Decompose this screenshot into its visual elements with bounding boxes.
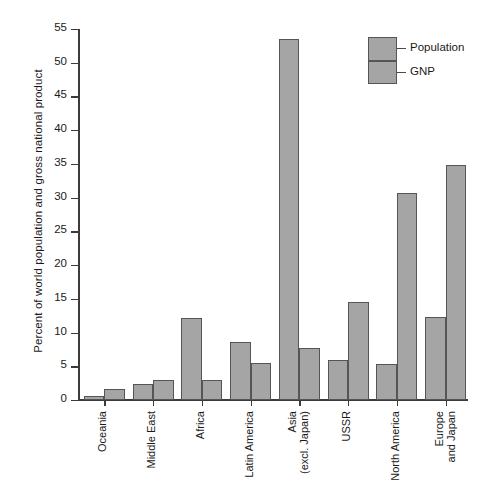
y-axis-tick: 35 — [71, 164, 78, 165]
y-axis-tick: 45 — [71, 96, 78, 97]
y-axis-tick: 50 — [71, 63, 78, 64]
bar-gnp-europe-and-japan — [446, 165, 467, 400]
y-axis-tick: 40 — [71, 130, 78, 131]
x-axis-category-label: Latin America — [244, 411, 256, 478]
bar-gnp-middle-east — [153, 380, 174, 400]
y-axis-tick-label: 10 — [54, 325, 67, 337]
x-axis-tick — [348, 400, 349, 406]
legend: Population GNP — [368, 37, 397, 84]
legend-leader-gnp — [397, 72, 406, 73]
x-axis-tick — [446, 400, 447, 406]
x-axis-category-label-line: (excl. Japan) — [298, 411, 310, 474]
y-axis-tick-label: 45 — [54, 88, 67, 100]
x-axis-category-label-line: Middle East — [145, 411, 157, 468]
bar-population-asia-excl-japan — [279, 39, 300, 400]
x-axis-category-label-line: Europe — [432, 411, 444, 446]
x-axis-category-label-line: Africa — [194, 411, 206, 439]
y-axis-tick: 0 — [71, 400, 78, 401]
x-axis-category-label: Middle East — [146, 411, 158, 468]
y-axis-tick: 10 — [71, 333, 78, 334]
legend-swatch-population — [368, 37, 397, 61]
bar-population-africa — [181, 318, 202, 400]
bar-gnp-ussr — [348, 302, 369, 400]
bar-gnp-latin-america — [251, 363, 272, 400]
y-axis-tick: 20 — [71, 265, 78, 266]
y-axis-tick-label: 25 — [54, 223, 67, 235]
bar-population-middle-east — [133, 384, 154, 400]
y-axis-tick-label: 15 — [54, 291, 67, 303]
bar-population-europe-and-japan — [425, 317, 446, 400]
y-axis-tick: 15 — [71, 299, 78, 300]
legend-label-population: Population — [410, 41, 464, 53]
x-axis-category-label-line: Latin America — [243, 411, 255, 478]
bar-chart-figure: Percent of world population and gross na… — [0, 0, 478, 504]
legend-swatch-gnp — [368, 61, 397, 85]
y-axis-tick-label: 20 — [54, 257, 67, 269]
y-axis-tick-label: 35 — [54, 156, 67, 168]
bar-population-ussr — [328, 360, 349, 400]
y-axis-line — [78, 29, 80, 400]
x-axis-category-label-line: North America — [389, 411, 401, 481]
x-axis-tick — [397, 400, 398, 406]
x-axis-tick — [299, 400, 300, 406]
x-axis-category-label-line: and Japan — [445, 411, 457, 462]
bar-population-latin-america — [230, 342, 251, 400]
x-axis-category-label: USSR — [341, 411, 353, 442]
y-axis-tick-label: 30 — [54, 190, 67, 202]
bar-gnp-oceania — [104, 389, 125, 400]
y-axis-title: Percent of world population and gross na… — [32, 51, 44, 371]
x-axis-category-label-line: USSR — [340, 411, 352, 442]
y-axis-tick-label: 0 — [61, 392, 67, 404]
y-axis-tick-label: 55 — [54, 21, 67, 33]
x-axis-category-label: North America — [390, 411, 402, 481]
y-axis-tick: 5 — [71, 366, 78, 367]
x-axis-category-label-line: Asia — [286, 411, 298, 432]
x-axis-category-label: Europeand Japan — [433, 411, 456, 462]
bar-gnp-north-america — [397, 193, 418, 400]
bar-gnp-africa — [202, 380, 223, 400]
bar-population-north-america — [376, 364, 397, 400]
x-axis-category-label: Africa — [195, 411, 207, 439]
legend-label-gnp: GNP — [410, 65, 435, 77]
x-axis-category-label: Asia(excl. Japan) — [287, 411, 310, 474]
y-axis-tick-label: 5 — [61, 358, 67, 370]
y-axis-tick: 30 — [71, 198, 78, 199]
y-axis-tick-label: 50 — [54, 55, 67, 67]
plot-area: 0510152025303540455055 OceaniaMiddle Eas… — [78, 29, 468, 400]
x-axis-tick — [251, 400, 252, 406]
legend-leader-population — [397, 48, 406, 49]
x-axis-category-label: Oceania — [98, 411, 110, 452]
x-axis-category-label-line: Oceania — [97, 411, 109, 452]
x-axis-tick — [202, 400, 203, 406]
y-axis-tick: 25 — [71, 231, 78, 232]
bar-gnp-asia-excl-japan — [299, 348, 320, 400]
x-axis-tick — [104, 400, 105, 406]
bar-population-oceania — [84, 396, 105, 400]
x-axis-tick — [153, 400, 154, 406]
y-axis-tick: 55 — [71, 29, 78, 30]
y-axis-tick-label: 40 — [54, 122, 67, 134]
